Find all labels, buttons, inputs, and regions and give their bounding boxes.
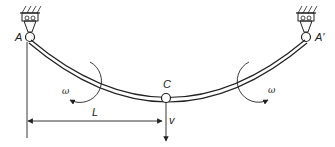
label-omega-left: ω: [62, 86, 70, 96]
midpoint-hinge: [162, 94, 171, 103]
left-pin-support: [20, 6, 41, 42]
label-v: v: [169, 114, 176, 126]
label-a-prime: A': [314, 31, 325, 43]
curved-beam: [29, 40, 307, 102]
curved-beam-diagram: A A' C L v ω ω: [0, 0, 335, 147]
label-a: A: [14, 31, 22, 43]
label-omega-right: ω: [268, 85, 276, 95]
label-l: L: [92, 106, 98, 118]
label-c: C: [163, 78, 171, 90]
right-rotation-arrow: [237, 62, 268, 102]
right-pin-support: [296, 6, 317, 42]
